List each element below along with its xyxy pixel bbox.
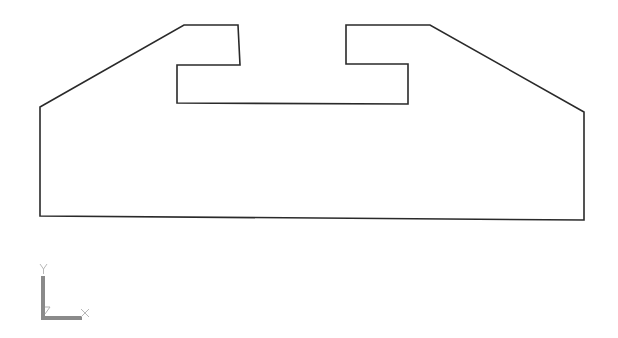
ucs-x-glyph xyxy=(81,309,89,317)
profile-outline[interactable] xyxy=(40,25,584,220)
ucs-y-axis xyxy=(41,276,45,320)
drawing-canvas[interactable] xyxy=(0,0,618,338)
ucs-icon xyxy=(40,264,89,320)
ucs-box-mark xyxy=(45,307,50,314)
ucs-x-axis xyxy=(41,316,82,320)
ucs-y-glyph xyxy=(40,264,47,274)
